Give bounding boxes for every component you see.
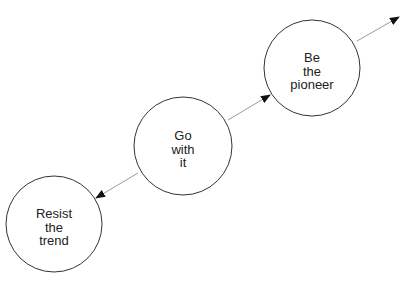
label-line: pioneer (290, 78, 333, 92)
label-line: the (36, 220, 72, 234)
arrow-go-to-resist (96, 173, 138, 198)
node-pioneer-label: Be the pioneer (290, 51, 333, 92)
label-line: with (171, 142, 194, 156)
node-go-label: Go with it (171, 129, 194, 170)
arrow-pioneer-onward (357, 17, 399, 41)
label-line: trend (36, 234, 72, 248)
arrow-go-to-pioneer (228, 95, 270, 120)
label-line: Go (171, 129, 194, 143)
label-line: Resist (36, 207, 72, 221)
label-line: Be (290, 51, 333, 65)
label-line: the (290, 64, 333, 78)
label-line: it (171, 156, 194, 170)
node-resist-label: Resist the trend (36, 207, 72, 248)
